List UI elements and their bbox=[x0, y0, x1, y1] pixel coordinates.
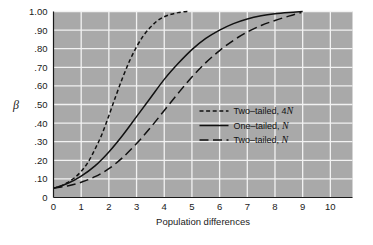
legend-label-1: One–tailed, N bbox=[234, 120, 291, 131]
y-tick-label: .60 bbox=[34, 80, 47, 91]
y-tick-label: .50 bbox=[34, 99, 47, 110]
y-tick-label: .80 bbox=[34, 43, 47, 54]
x-tick-label: 1 bbox=[79, 201, 84, 212]
y-axis-title: β bbox=[12, 98, 19, 112]
y-tick-label: .30 bbox=[34, 136, 47, 147]
x-tick-label: 5 bbox=[189, 201, 194, 212]
x-tick-label: 3 bbox=[134, 201, 139, 212]
y-tick-label: 0 bbox=[42, 192, 47, 203]
y-tick-label: .10 bbox=[34, 173, 47, 184]
y-tick-label: .40 bbox=[34, 118, 47, 129]
x-tick-label: 6 bbox=[217, 201, 222, 212]
x-tick-label: 0 bbox=[51, 201, 56, 212]
chart-legend: Two–tailed, 4NOne–tailed, NTwo–tailed, N bbox=[200, 105, 295, 145]
chart-figure: 012345678910 0.10.20.30.40.50.60.70.80.9… bbox=[0, 0, 373, 245]
x-tick-label: 8 bbox=[272, 201, 277, 212]
x-tick-label: 10 bbox=[325, 201, 336, 212]
x-tick-label: 2 bbox=[106, 201, 111, 212]
y-tick-label: 1.00 bbox=[29, 6, 48, 17]
y-tick-label: .70 bbox=[34, 62, 47, 73]
y-tick-label: .90 bbox=[34, 25, 47, 36]
x-tick-label: 9 bbox=[300, 201, 305, 212]
y-tick-label: .20 bbox=[34, 155, 47, 166]
x-tick-label: 4 bbox=[162, 201, 167, 212]
beta-power-curve-chart: 012345678910 0.10.20.30.40.50.60.70.80.9… bbox=[0, 0, 373, 245]
legend-label-0: Two–tailed, 4N bbox=[234, 105, 295, 116]
x-tick-label: 7 bbox=[245, 201, 250, 212]
x-axis-title: Population differences bbox=[156, 216, 250, 227]
legend-label-2: Two–tailed, N bbox=[234, 134, 290, 145]
